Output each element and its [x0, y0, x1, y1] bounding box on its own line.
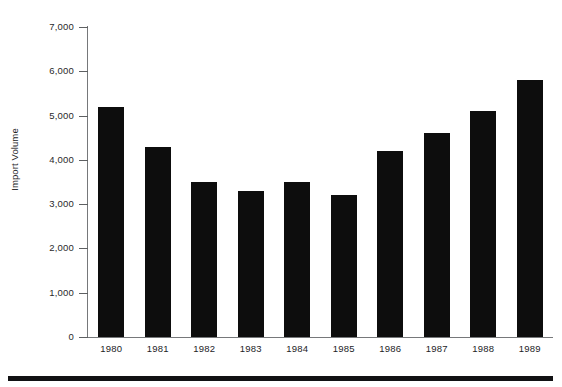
bar [517, 80, 543, 337]
y-axis-tick-label-wrap: 7,000 [0, 21, 74, 33]
y-axis-tick [79, 293, 88, 294]
footer-rule [8, 376, 553, 381]
y-axis-tick-label-wrap: 6,000 [0, 65, 74, 77]
y-axis-tick-label-wrap: 4,000 [0, 154, 74, 166]
bar [284, 182, 310, 337]
y-axis-tick-label: 2,000 [4, 242, 74, 253]
bar-series [88, 27, 553, 337]
y-axis-tick-label: 1,000 [4, 287, 74, 298]
bar-chart-figure: Import Volume 01,0002,0003,0004,0005,000… [0, 0, 562, 387]
y-axis-tick-label: 3,000 [4, 198, 74, 209]
y-axis-tick [79, 337, 88, 338]
y-axis-tick-label-wrap: 1,000 [0, 287, 74, 299]
x-axis-line [87, 337, 553, 338]
y-axis-tick [79, 27, 88, 28]
y-axis-tick-label: 5,000 [4, 110, 74, 121]
y-axis-tick-label-wrap: 2,000 [0, 242, 74, 254]
bar [98, 107, 124, 337]
bar [424, 133, 450, 337]
bar [331, 195, 357, 337]
y-axis-tick-label: 4,000 [4, 154, 74, 165]
bar [145, 147, 171, 337]
bar [191, 182, 217, 337]
y-axis-tick [79, 204, 88, 205]
y-axis-tick-label-wrap: 0 [0, 331, 74, 343]
y-axis-tick [79, 160, 88, 161]
y-axis-tick [79, 71, 88, 72]
y-axis-tick-label: 0 [4, 331, 74, 342]
y-axis-tick [79, 248, 88, 249]
bar [238, 191, 264, 337]
y-axis-tick [79, 116, 88, 117]
y-axis-tick-label: 6,000 [4, 65, 74, 76]
y-axis-tick-label: 7,000 [4, 21, 74, 32]
bar [470, 111, 496, 337]
y-axis-tick-label-wrap: 3,000 [0, 198, 74, 210]
y-axis-tick-label-wrap: 5,000 [0, 110, 74, 122]
bar [377, 151, 403, 337]
x-axis-tick-label: 1989 [502, 343, 558, 354]
